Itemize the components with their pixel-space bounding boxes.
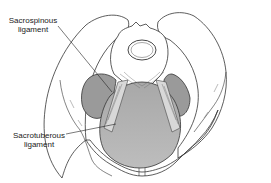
sacrospinous-label-line2: ligament [8,25,58,34]
sacrospinous-label-line1: Sacrospinous [8,16,58,25]
sacrotuberous-label-line2: ligament [12,140,66,149]
sacrospinous-ligament-label: Sacrospinous ligament [8,16,58,34]
sacrotuberous-label-line1: Sacrotuberous [12,131,66,140]
sacrotuberous-ligament-label: Sacrotuberous ligament [12,131,66,149]
vertebral-body [128,40,156,60]
